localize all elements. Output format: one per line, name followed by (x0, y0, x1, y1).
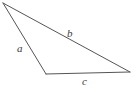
side-label-c: c (82, 76, 87, 87)
triangle-figure: a b c (0, 0, 136, 93)
triangle-side-c-line (46, 72, 130, 74)
side-label-a: a (17, 43, 23, 54)
side-label-b: b (67, 28, 73, 39)
triangle-side-a-line (3, 3, 46, 74)
